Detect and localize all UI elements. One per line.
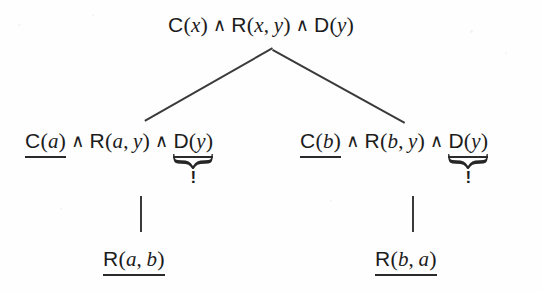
scan-speckle: [330, 200, 332, 202]
conjunction-symbol: ∧: [66, 130, 89, 151]
close-paren: ): [200, 12, 208, 37]
scan-speckle: [18, 24, 21, 26]
bang-marker: !: [448, 169, 488, 186]
node-root-formula: C(x)∧R(x, y)∧D(y): [168, 12, 354, 38]
variable-a: a: [112, 129, 123, 153]
predicate-letter: D: [173, 129, 188, 152]
edge-root-to-right-child: [272, 49, 405, 123]
predicate-letter: R: [375, 247, 390, 270]
open-paren: (: [183, 12, 191, 37]
atom-d-2: D(y): [314, 12, 354, 38]
variable-b: b: [398, 247, 409, 271]
predicate-letter: D: [314, 13, 329, 36]
atom-d-2: D(y)!: [448, 128, 488, 154]
variable-b: b: [146, 247, 157, 271]
argument-comma: ,: [264, 13, 274, 37]
argument-comma: ,: [137, 247, 147, 271]
underbrace-icon: [448, 154, 488, 169]
atom-d-2: D(y)!: [173, 128, 213, 154]
close-paren: ): [283, 12, 291, 37]
close-paren: ): [418, 128, 426, 153]
close-paren: ): [347, 12, 355, 37]
variable-y: y: [196, 129, 206, 153]
bang-marker: !: [173, 169, 213, 186]
open-paren: (: [390, 246, 398, 271]
variable-x: x: [254, 13, 264, 37]
close-paren: ): [59, 128, 67, 153]
predicate-letter: D: [448, 129, 463, 152]
variable-a: a: [48, 129, 59, 153]
underbrace-icon: [173, 154, 213, 169]
node-left-leaf-formula: R(a, b): [103, 246, 165, 272]
predicate-letter: C: [168, 13, 183, 36]
variable-y: y: [274, 13, 284, 37]
variable-y: y: [133, 129, 143, 153]
close-paren: ): [143, 128, 151, 153]
proof-tree-figure: C(x)∧R(x, y)∧D(y) C(a)∧R(a, y)∧D(y)! C(b…: [0, 0, 542, 292]
close-paren: ): [206, 128, 214, 153]
open-paren: (: [118, 246, 126, 271]
scan-speckle: [60, 208, 62, 210]
atom-r-0: R(b, a): [375, 246, 437, 272]
variable-b: b: [323, 129, 334, 153]
open-paren: (: [329, 12, 337, 37]
close-paren: ): [157, 246, 165, 271]
node-right-child-formula: C(b)∧R(b, y)∧D(y)!: [300, 128, 488, 154]
edge-right-child-to-right-leaf: [412, 196, 414, 232]
close-paren: ): [429, 246, 437, 271]
predicate-letter: C: [300, 129, 315, 152]
open-paren: (: [315, 128, 323, 153]
conjunction-symbol: ∧: [291, 14, 314, 35]
edge-left-child-to-left-leaf: [140, 196, 142, 232]
close-paren: ): [481, 128, 489, 153]
scan-speckle: [505, 52, 507, 54]
atom-r-1: R(b, y): [365, 128, 426, 154]
variable-a: a: [418, 247, 429, 271]
open-paren: (: [40, 128, 48, 153]
conjunction-symbol: ∧: [341, 130, 364, 151]
predicate-letter: R: [103, 247, 118, 270]
node-right-leaf-formula: R(b, a): [375, 246, 437, 272]
argument-comma: ,: [409, 247, 419, 271]
atom-c-0: C(x): [168, 12, 208, 38]
close-paren: ): [334, 128, 342, 153]
edge-root-to-left-child: [144, 48, 273, 122]
predicate-letter: C: [25, 129, 40, 152]
conjunction-symbol: ∧: [208, 14, 231, 35]
scan-speckle: [92, 14, 94, 16]
argument-comma: ,: [123, 129, 133, 153]
atom-c-0: C(b): [300, 128, 341, 154]
variable-y: y: [408, 129, 418, 153]
scan-speckle: [470, 30, 473, 33]
variable-a: a: [126, 247, 137, 271]
variable-b: b: [387, 129, 398, 153]
conjunction-symbol: ∧: [150, 130, 173, 151]
variable-y: y: [471, 129, 481, 153]
argument-comma: ,: [398, 129, 408, 153]
node-left-child-formula: C(a)∧R(a, y)∧D(y)!: [25, 128, 213, 154]
variable-y: y: [337, 13, 347, 37]
underbrace-group: !: [448, 154, 488, 184]
conjunction-symbol: ∧: [425, 130, 448, 151]
underbrace-group: !: [173, 154, 213, 184]
atom-c-0: C(a): [25, 128, 66, 154]
atom-r-1: R(a, y): [90, 128, 151, 154]
atom-r-1: R(x, y): [231, 12, 290, 38]
variable-x: x: [191, 13, 201, 37]
predicate-letter: R: [365, 129, 380, 152]
atom-r-0: R(a, b): [103, 246, 165, 272]
predicate-letter: R: [231, 13, 246, 36]
predicate-letter: R: [90, 129, 105, 152]
